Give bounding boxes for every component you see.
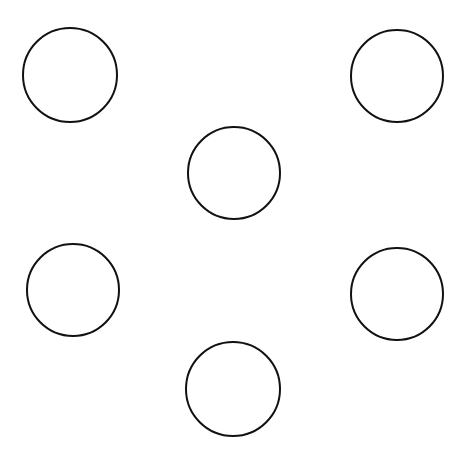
circle-bottom-center	[186, 342, 280, 436]
circle-top-right	[351, 30, 443, 122]
circle-bottom-right	[351, 248, 443, 340]
circle-center	[188, 127, 280, 219]
circle-bottom-left	[27, 244, 119, 336]
circle-group	[23, 28, 443, 436]
circle-diagram	[0, 0, 466, 454]
circle-top-left	[23, 28, 117, 122]
